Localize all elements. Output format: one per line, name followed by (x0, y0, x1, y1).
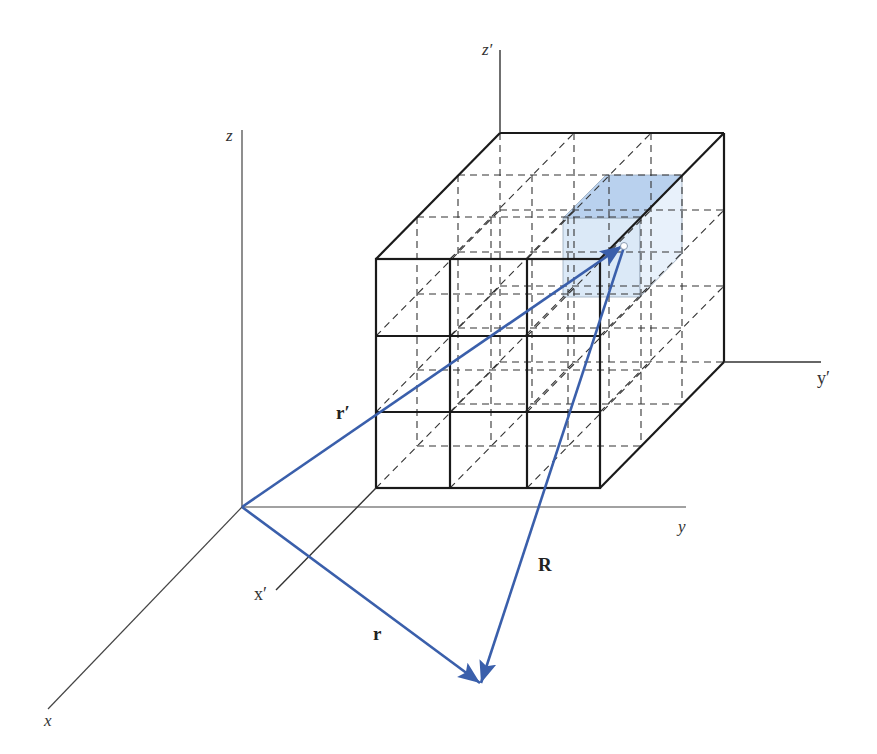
x-axis (48, 507, 242, 709)
source-point (621, 243, 628, 250)
vector-r (242, 507, 480, 683)
z-prime-axis-label: z′ (481, 40, 493, 59)
vector-R-label: R (538, 554, 552, 575)
cube-top-left-edge (376, 133, 500, 259)
x-axis-label: x (43, 711, 52, 730)
cube-bottom-right-edge (600, 362, 724, 488)
primed-axes (276, 50, 821, 590)
vector-r-prime-label: r′ (336, 402, 350, 423)
x-prime-axis (276, 488, 376, 590)
vector-r-label: r (373, 623, 382, 644)
vector-R (481, 247, 624, 683)
y-axis-label: y (676, 517, 686, 536)
diagram-canvas: z y x z′ y′ x′ r′ r R (0, 0, 877, 754)
y-prime-axis-label: y′ (817, 368, 830, 388)
vector-r-prime (242, 246, 622, 507)
vectors (242, 246, 624, 683)
x-prime-axis-label: x′ (254, 584, 267, 604)
z-axis-label: z (225, 126, 233, 145)
